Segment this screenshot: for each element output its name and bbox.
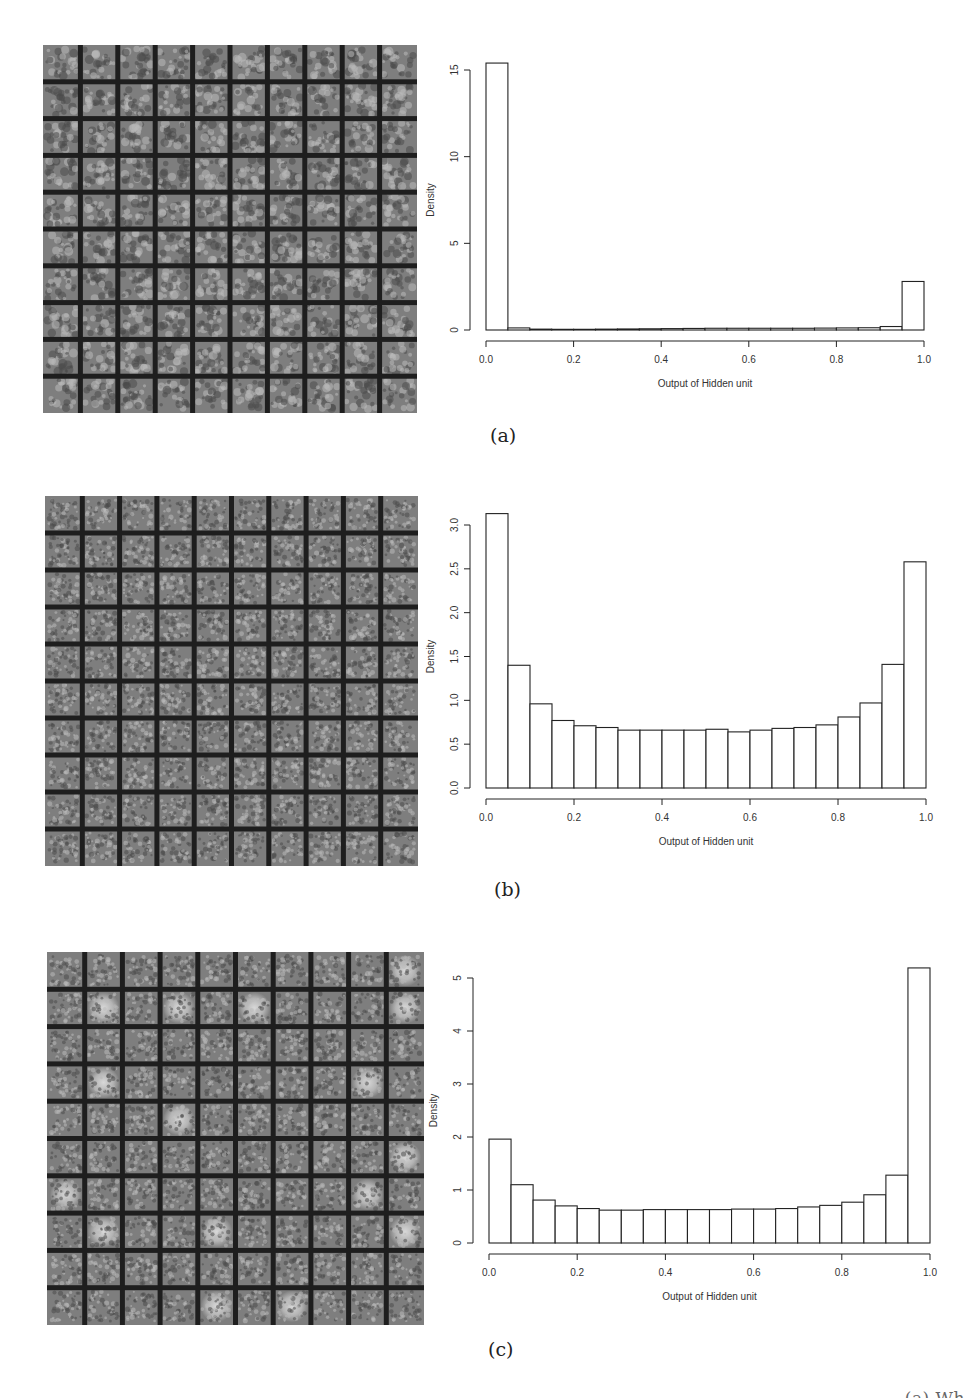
filter-cell [120, 644, 157, 681]
filter-cell [155, 376, 192, 413]
filter-cell [120, 755, 157, 792]
filter-cell [160, 1213, 198, 1250]
filter-cell [122, 1101, 160, 1138]
filter-cell [45, 644, 82, 681]
filter-cell [230, 45, 267, 82]
filter-cell [194, 792, 231, 829]
filter-cell [194, 533, 231, 570]
filter-cell [160, 1064, 198, 1101]
filter-cell [160, 1139, 198, 1176]
filter-cell [43, 303, 80, 340]
filter-cell [349, 1213, 387, 1250]
histogram-bar [882, 664, 904, 788]
histogram-b: 0.00.51.01.52.02.53.0Density0.00.20.40.6… [420, 500, 960, 860]
histogram-bar [577, 1209, 599, 1243]
filter-cell [45, 533, 82, 570]
filter-cell [194, 496, 231, 533]
filter-cell [380, 229, 417, 266]
x-tick-label: 0.2 [570, 1267, 584, 1278]
histogram-bar [683, 328, 705, 330]
filter-cell [305, 303, 342, 340]
histogram-bar [552, 720, 574, 788]
filter-cell [194, 718, 231, 755]
panel-label-c: (c) [488, 1338, 513, 1360]
filter-cell [236, 1213, 274, 1250]
x-tick-label: 0.8 [835, 1267, 849, 1278]
filter-cell [85, 952, 123, 989]
filter-cell [381, 607, 418, 644]
histogram-bar [794, 728, 816, 788]
filter-cell [273, 1176, 311, 1213]
filter-cell [342, 339, 379, 376]
filter-cell [267, 266, 304, 303]
filter-cell [311, 989, 349, 1026]
filter-cell [342, 303, 379, 340]
filter-cell [155, 339, 192, 376]
x-tick-label: 1.0 [923, 1267, 937, 1278]
filter-cell [82, 681, 119, 718]
x-axis-label: Output of Hidden unit [662, 1291, 757, 1302]
filter-cell [157, 533, 194, 570]
filter-cell [80, 266, 117, 303]
filter-cell [267, 192, 304, 229]
filter-cell [273, 1064, 311, 1101]
filter-cell [349, 989, 387, 1026]
filter-cell [43, 229, 80, 266]
y-axis-label: Density [425, 640, 436, 673]
y-tick-label: 0 [452, 1240, 463, 1246]
filter-cell [157, 570, 194, 607]
filter-cell [157, 644, 194, 681]
filter-cell [230, 82, 267, 119]
filter-cell [311, 1288, 349, 1325]
filter-cell [82, 607, 119, 644]
filter-cell [194, 829, 231, 866]
histogram-bars [486, 63, 924, 330]
filter-cell [122, 1213, 160, 1250]
filter-cell [236, 1027, 274, 1064]
filter-cell [267, 119, 305, 156]
filter-cell [45, 607, 82, 644]
filter-cell [273, 1288, 311, 1325]
filter-cell [342, 45, 379, 82]
histogram-bar [902, 281, 924, 330]
filter-cell [380, 376, 417, 413]
x-axis: 0.00.20.40.60.81.0Output of Hidden unit [479, 341, 931, 389]
filter-cell [157, 607, 194, 644]
filter-cell [45, 829, 82, 866]
filter-cell [306, 681, 343, 718]
filter-cell [267, 376, 304, 413]
filter-cell [269, 681, 306, 718]
filter-cell [381, 718, 418, 755]
filter-cell [122, 1288, 160, 1325]
filter-cell [306, 792, 343, 829]
filter-cell [230, 303, 267, 340]
filter-cell [236, 952, 274, 989]
filter-cell [43, 339, 80, 376]
histogram-bar [864, 1195, 886, 1243]
histogram-bar [710, 1210, 732, 1243]
filter-cell [273, 1250, 311, 1287]
filter-cell [160, 1176, 198, 1213]
histogram-bar [662, 730, 684, 788]
histogram-bar [555, 1206, 577, 1243]
filter-cell [236, 1139, 274, 1176]
filter-cell [306, 718, 343, 755]
histogram-bar [858, 328, 880, 330]
filter-cell [305, 119, 342, 156]
filter-cell [198, 952, 236, 989]
histogram-a: 051015Density0.00.20.40.60.81.0Output of… [420, 40, 960, 400]
filter-cell [380, 339, 417, 376]
histogram-bar [706, 729, 728, 788]
filter-cell [157, 829, 194, 866]
filter-cell [120, 681, 157, 718]
filter-cell [47, 1288, 85, 1325]
filter-cell [380, 119, 417, 156]
filter-cell [120, 570, 157, 607]
filter-cell [381, 755, 418, 792]
filter-cell [155, 303, 192, 340]
histogram-bars [486, 514, 926, 788]
filter-cell [273, 1027, 311, 1064]
y-axis: 012345Density [428, 975, 473, 1246]
filter-cell [232, 644, 269, 681]
filter-cell [160, 1027, 198, 1064]
